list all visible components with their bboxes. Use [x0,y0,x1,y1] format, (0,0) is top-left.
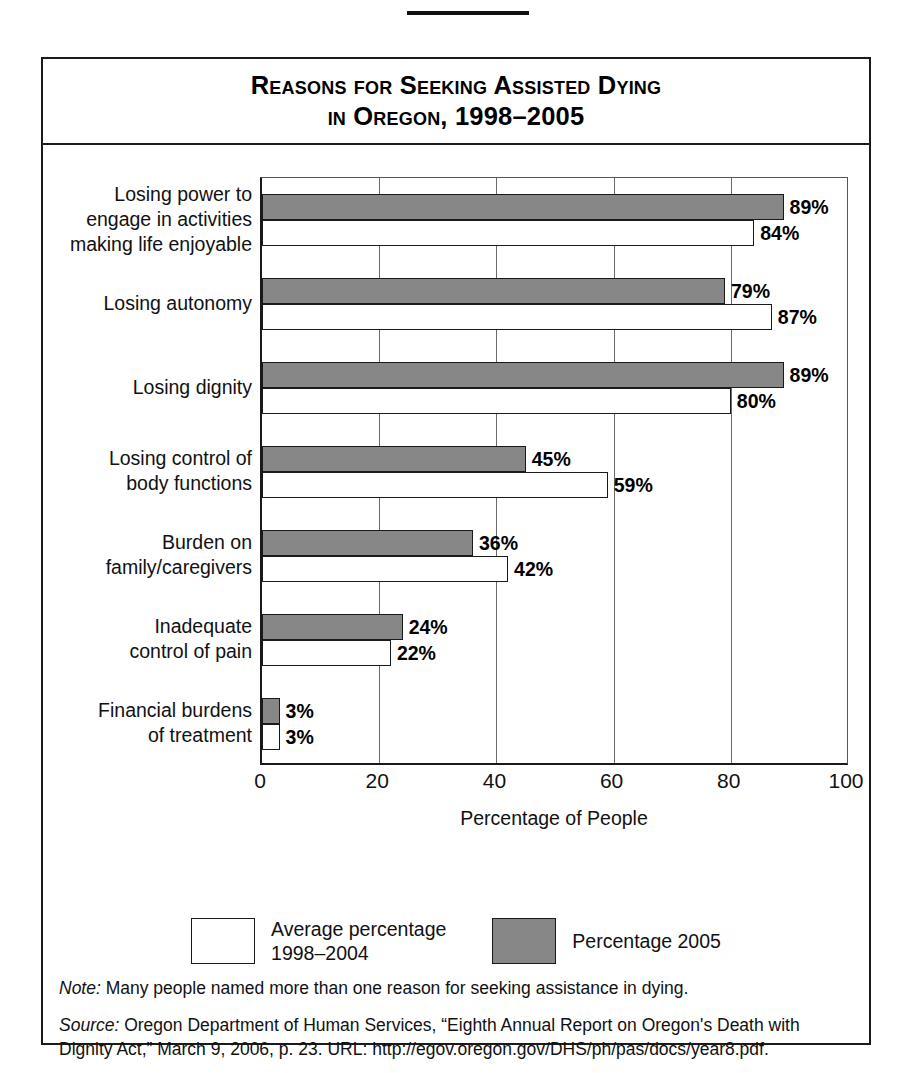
source-line: Source: Oregon Department of Human Servi… [59,1013,853,1061]
legend-item: Percentage 2005 [492,918,721,964]
bar-value-label: 89% [784,194,829,220]
bar [262,362,784,388]
legend-label: Percentage 2005 [572,929,721,953]
note-lead: Note: [59,978,101,998]
bar [262,724,280,750]
bar-value-label: 3% [280,724,314,750]
top-divider-rule [407,11,529,15]
category-label-line: Burden on [44,530,252,555]
x-axis-title: Percentage of People [260,807,848,830]
category-label-line: control of pain [44,639,252,664]
bar-value-label: 3% [280,698,314,724]
chart-title-line-1: Reasons for Seeking Assisted Dying [251,70,662,101]
category-label-line: Losing dignity [44,375,252,400]
category-label: Financial burdensof treatment [44,698,252,748]
publisher-credit: © Infobase Publishing [59,1069,853,1073]
legend-swatch [191,918,255,964]
chart-title-band: Reasons for Seeking Assisted Dying in Or… [43,59,869,145]
category-label-line: making life enjoyable [44,232,252,257]
legend-item: Average percentage1998–2004 [191,917,446,965]
bar [262,304,772,330]
x-tick-label: 0 [254,769,266,793]
plot-area: 89%84%79%87%89%80%45%59%36%42%24%22%3%3% [260,177,848,765]
note-body: Many people named more than one reason f… [101,978,689,998]
bar [262,556,508,582]
category-axis-labels: Losing power toengage in activitiesmakin… [43,177,258,765]
x-tick-label: 60 [600,769,623,793]
category-label-line: Losing power to [44,182,252,207]
bar-value-label: 36% [473,530,518,556]
legend-label: Average percentage1998–2004 [271,917,446,965]
source-lead: Source: [59,1015,119,1035]
category-label-line: body functions [44,471,252,496]
bar-value-label: 22% [391,640,436,666]
bar [262,472,608,498]
bar [262,530,473,556]
bar [262,194,784,220]
bar [262,388,731,414]
category-label-line: family/caregivers [44,555,252,580]
category-label-line: Losing control of [44,446,252,471]
category-label: Losing power toengage in activitiesmakin… [44,182,252,257]
chart-plot-wrapper: Losing power toengage in activitiesmakin… [43,145,869,905]
source-body: Oregon Department of Human Services, “Ei… [59,1015,800,1059]
gridline [731,178,732,763]
gridline [614,178,615,763]
x-tick-label: 100 [828,769,863,793]
bar-value-label: 84% [754,220,799,246]
bar [262,640,391,666]
x-tick-label: 20 [366,769,389,793]
category-label-line: Inadequate [44,614,252,639]
chart-legend: Average percentage1998–2004Percentage 20… [43,905,869,977]
category-label-line: of treatment [44,723,252,748]
legend-swatch [492,918,556,964]
bar-value-label: 79% [725,278,770,304]
bar [262,698,280,724]
category-label-line: Losing autonomy [44,291,252,316]
category-label: Losing dignity [44,375,252,400]
legend-label-line-1: Percentage 2005 [572,930,721,952]
category-label: Burden onfamily/caregivers [44,530,252,580]
bar-value-label: 59% [608,472,653,498]
x-tick-label: 80 [717,769,740,793]
bar-value-label: 42% [508,556,553,582]
bar-value-label: 89% [784,362,829,388]
figure-notes: Note: Many people named more than one re… [43,977,869,1073]
legend-label-line-1: Average percentage [271,918,446,940]
bar [262,278,725,304]
category-label: Losing control ofbody functions [44,446,252,496]
chart-title-line-2: in Oregon, 1998–2005 [328,101,585,132]
bar [262,220,754,246]
x-tick-label: 40 [483,769,506,793]
bar-value-label: 80% [731,388,776,414]
category-label-line: engage in activities [44,207,252,232]
figure-frame: Reasons for Seeking Assisted Dying in Or… [41,57,871,1045]
category-label: Losing autonomy [44,291,252,316]
note-line: Note: Many people named more than one re… [59,977,853,999]
bar-value-label: 45% [526,446,571,472]
bar [262,614,403,640]
category-label-line: Financial burdens [44,698,252,723]
bar [262,446,526,472]
legend-label-line-2: 1998–2004 [271,941,446,965]
x-axis-ticks: 020406080100 [260,769,848,799]
bar-value-label: 87% [772,304,817,330]
bar-value-label: 24% [403,614,448,640]
category-label: Inadequatecontrol of pain [44,614,252,664]
